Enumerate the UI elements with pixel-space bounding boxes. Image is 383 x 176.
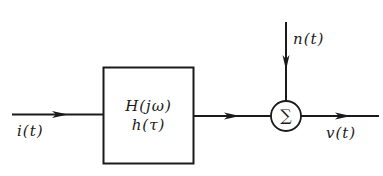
- output-signal-label: v(t): [326, 126, 356, 141]
- frequency-response-label: H(jω): [125, 97, 172, 116]
- noise-arrow: [283, 22, 290, 101]
- sigma-icon: ∑: [271, 101, 301, 131]
- input-signal-label: i(t): [17, 124, 44, 139]
- input-arrow: [12, 111, 103, 118]
- block-output-arrow: [194, 113, 271, 120]
- impulse-response-label: h(τ): [132, 116, 166, 135]
- output-arrow: [301, 113, 379, 120]
- transfer-function-label: H(jω) h(τ): [103, 67, 194, 164]
- noise-signal-label: n(t): [293, 32, 324, 47]
